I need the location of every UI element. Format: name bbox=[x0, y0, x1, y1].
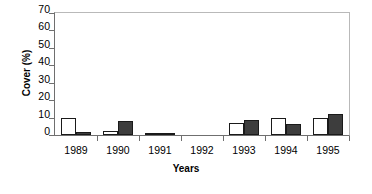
bar-filled-1995 bbox=[328, 114, 343, 135]
x-axis-tick-mark bbox=[349, 136, 350, 141]
bar-open-1989 bbox=[61, 118, 76, 135]
x-axis-tick-label-1995: 1995 bbox=[316, 144, 339, 156]
x-axis-tick-mark bbox=[139, 136, 140, 141]
bar-open-1993 bbox=[229, 123, 244, 135]
bar-group bbox=[229, 13, 259, 135]
y-axis-tick-mark bbox=[49, 100, 54, 101]
bar-group bbox=[187, 13, 217, 135]
x-axis-tick-mark bbox=[223, 136, 224, 141]
x-axis-tick-label-1989: 1989 bbox=[64, 144, 87, 156]
bar-filled-1991 bbox=[160, 133, 175, 135]
bar-group bbox=[103, 13, 133, 135]
bar-filled-1994 bbox=[286, 124, 301, 135]
bar-open-1994 bbox=[271, 118, 286, 135]
x-axis-title: Years bbox=[0, 163, 372, 174]
bar-filled-1993 bbox=[244, 120, 259, 135]
bar-open-1991 bbox=[145, 133, 160, 135]
y-axis-tick-mark bbox=[49, 118, 54, 119]
bar-open-1990 bbox=[103, 131, 118, 135]
x-axis-tick-label-1990: 1990 bbox=[106, 144, 129, 156]
y-axis-tick-mark bbox=[49, 65, 54, 66]
bar-group bbox=[61, 13, 91, 135]
x-axis-tick-mark bbox=[181, 136, 182, 141]
chart-container: Cover (%) 706050403020100 Years 19891990… bbox=[0, 0, 372, 194]
bar-filled-1989 bbox=[76, 132, 91, 135]
y-axis-tick-labels: 706050403020100 bbox=[26, 8, 50, 136]
x-axis-tick-label-1993: 1993 bbox=[232, 144, 255, 156]
x-axis-tick-label-1992: 1992 bbox=[190, 144, 213, 156]
bar-group bbox=[313, 13, 343, 135]
bars-area bbox=[55, 13, 349, 135]
y-axis-tick-mark bbox=[49, 48, 54, 49]
y-axis-tick-mark bbox=[49, 135, 54, 136]
bar-group bbox=[145, 13, 175, 135]
x-axis-tick-mark bbox=[307, 136, 308, 141]
bar-group bbox=[271, 13, 301, 135]
bar-filled-1990 bbox=[118, 121, 133, 135]
x-axis-tick-label-1994: 1994 bbox=[274, 144, 297, 156]
x-axis-tick-label-1991: 1991 bbox=[148, 144, 171, 156]
x-axis-tick-mark bbox=[265, 136, 266, 141]
x-axis-tick-mark bbox=[97, 136, 98, 141]
y-axis-tick-mark bbox=[49, 83, 54, 84]
y-axis-tick-mark bbox=[49, 30, 54, 31]
y-axis-tick-mark bbox=[49, 13, 54, 14]
bar-open-1995 bbox=[313, 118, 328, 135]
